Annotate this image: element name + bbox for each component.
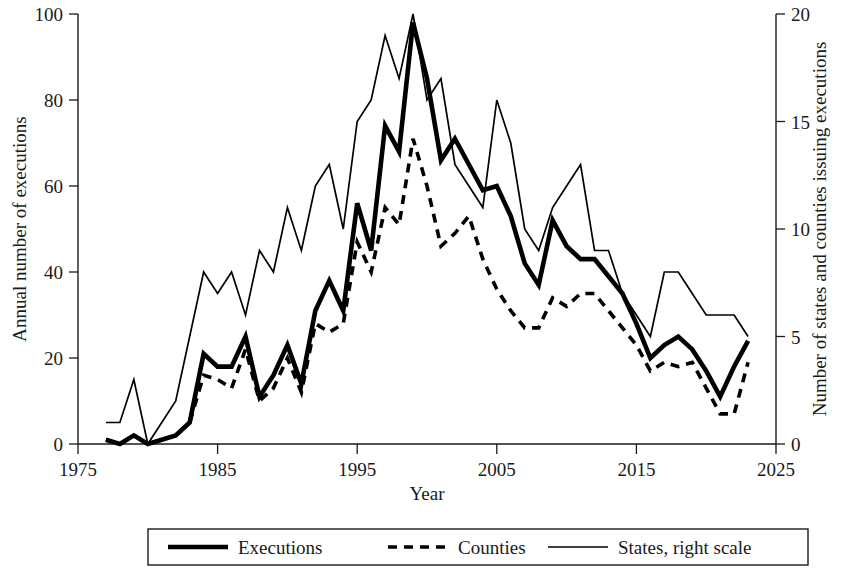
x-axis-tick-label: 1975 [59, 459, 97, 480]
y-axis-left-tick-label: 100 [35, 4, 64, 25]
x-axis-tick-label: 1985 [199, 459, 237, 480]
x-axis-tick-label: 2025 [757, 459, 795, 480]
series-line-executions [106, 23, 748, 444]
y-axis-right-tick-label: 20 [791, 4, 810, 25]
y-axis-right-tick-label: 10 [791, 219, 810, 240]
executions-line-chart: 020406080100 05101520 197519851995200520… [0, 0, 842, 568]
x-axis-tick-label: 1995 [338, 459, 376, 480]
x-axis-tick-label: 2005 [478, 459, 516, 480]
series-line-counties [106, 139, 748, 444]
y-axis-right-title: Number of states and counties issuing ex… [809, 42, 830, 417]
x-axis-tick-label: 2015 [617, 459, 655, 480]
legend-label-executions: Executions [238, 537, 322, 558]
legend-label-counties: Counties [458, 537, 526, 558]
legend-label-states: States, right scale [618, 537, 752, 558]
y-axis-left-ticks: 020406080100 [35, 4, 79, 455]
y-axis-left-tick-label: 60 [44, 176, 63, 197]
y-axis-left-tick-label: 0 [54, 434, 64, 455]
y-axis-left-tick-label: 20 [44, 348, 63, 369]
x-axis-title: Year [409, 483, 445, 504]
y-axis-right-ticks: 05101520 [776, 4, 810, 455]
y-axis-left-tick-label: 40 [44, 262, 63, 283]
y-axis-right-tick-label: 5 [791, 327, 801, 348]
x-axis-ticks: 197519851995200520152025 [59, 444, 795, 480]
y-axis-right-tick-label: 15 [791, 112, 810, 133]
y-axis-right-tick-label: 0 [791, 434, 801, 455]
y-axis-left-title: Annual number of executions [9, 116, 30, 341]
y-axis-left-tick-label: 80 [44, 90, 63, 111]
chart-figure: 020406080100 05101520 197519851995200520… [0, 0, 842, 568]
chart-legend: Executions Counties States, right scale [148, 529, 808, 565]
